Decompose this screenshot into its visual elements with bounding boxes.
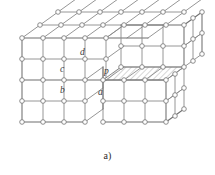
- atom-label-b: b: [60, 85, 65, 95]
- top-face-grid: [22, 0, 202, 38]
- lattice-diagram: d c p b a: [0, 0, 215, 152]
- atom-labels: d c p b a: [60, 47, 109, 97]
- atom-label-a: a: [98, 87, 103, 97]
- atom-label-d: d: [80, 47, 85, 57]
- lower-block-front-face: [103, 80, 166, 122]
- figure-container: d c p b a a): [0, 0, 215, 175]
- lattice-nodes-upper-block: [119, 44, 187, 70]
- figure-caption: a): [0, 150, 215, 161]
- atom-label-p: p: [103, 66, 109, 76]
